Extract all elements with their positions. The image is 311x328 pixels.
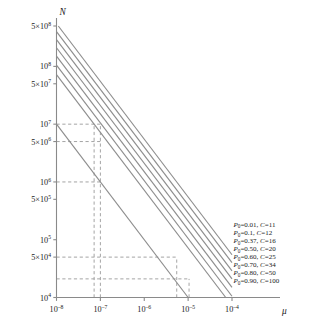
y-tick-label-0: 5×108 [31, 21, 51, 31]
y-tick-label-3: 107 [40, 119, 51, 129]
data-line-6 [57, 75, 226, 298]
data-line-4 [57, 56, 233, 287]
data-line-7 [57, 124, 189, 297]
y-tick-label-6: 5×105 [31, 194, 51, 204]
y-tick-label-1: 108 [40, 61, 51, 71]
data-line-3 [57, 48, 233, 279]
y-tick-label-4: 5×106 [31, 136, 51, 146]
x-tick-label-1: 10–7 [93, 304, 107, 314]
data-line-2 [57, 40, 233, 271]
y-tick-label-9: 104 [40, 292, 51, 302]
x-tick-label-2: 10–6 [137, 304, 151, 314]
chart-canvas: 5×1081085×1071075×1061065×1051055×104104… [0, 0, 311, 328]
x-tick-label-3: 10–5 [181, 304, 195, 314]
chart-figure: 5×1081085×1071075×1061065×1051055×104104… [0, 0, 311, 328]
data-line-1 [57, 32, 233, 263]
x-axis-title: μ [281, 306, 287, 316]
y-tick-label-8: 5×104 [31, 252, 51, 262]
y-tick-label-7: 105 [40, 234, 51, 244]
x-tick-label-0: 10–8 [50, 304, 64, 314]
data-line-0 [58, 26, 232, 255]
x-tick-label-4: 10–4 [225, 304, 239, 314]
legend-item-7: P0=0.90, C=100 [233, 277, 280, 286]
y-axis-title: N [59, 7, 67, 17]
data-line-5 [57, 65, 233, 296]
y-tick-label-5: 106 [40, 177, 51, 187]
y-tick-label-2: 5×107 [31, 78, 51, 88]
